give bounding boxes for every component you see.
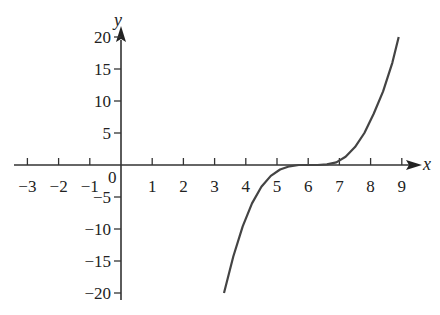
x-tick-label: 6 [304, 177, 313, 196]
x-tick-label: 4 [242, 177, 251, 196]
x-tick-label: 2 [179, 177, 188, 196]
x-tick-label: 1 [148, 177, 157, 196]
y-tick-label: −15 [84, 252, 111, 271]
x-tick-label: −3 [18, 177, 36, 196]
x-tick-label: 9 [398, 177, 407, 196]
y-tick-label: 20 [94, 28, 111, 47]
x-tick-label: 5 [273, 177, 282, 196]
origin-label: 0 [108, 168, 117, 187]
y-tick-label: −20 [84, 284, 111, 303]
x-tick-label: 8 [366, 177, 375, 196]
y-tick-label: 10 [94, 92, 111, 111]
y-tick-label: −10 [84, 220, 111, 239]
x-tick-label: 7 [335, 177, 344, 196]
y-tick-label: 5 [103, 124, 112, 143]
y-tick-label: −5 [93, 188, 111, 207]
y-axis-label: y [112, 10, 122, 30]
y-tick-label: 15 [94, 60, 111, 79]
x-tick-label: 3 [210, 177, 219, 196]
x-axis-label: x [422, 154, 431, 174]
x-tick-label: −2 [50, 177, 68, 196]
cubic-graph: −3−2−11234567892015105−5−10−15−20 x y 0 [0, 0, 440, 315]
axes [14, 26, 422, 300]
